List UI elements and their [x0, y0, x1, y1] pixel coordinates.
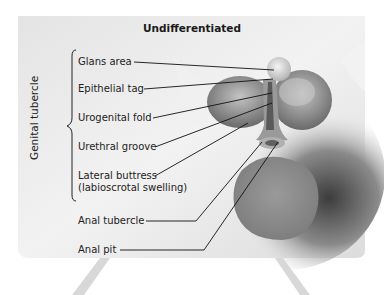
label-urethral-groove: Urethral groove — [78, 141, 156, 153]
label-anal-pit: Anal pit — [78, 244, 116, 256]
label-epithelial-tag: Epithelial tag — [78, 83, 144, 95]
group-label-genital-tubercle: Genital tubercle — [28, 76, 40, 160]
diagram-title: Undifferentiated — [0, 22, 384, 34]
diagram-illustration — [0, 0, 384, 295]
label-glans-area: Glans area — [78, 56, 132, 68]
label-lateral-buttress: Lateral buttress — [78, 170, 157, 182]
label-urogenital-fold: Urogenital fold — [78, 112, 152, 124]
label-anal-tubercle: Anal tubercle — [78, 215, 144, 227]
label-labioscrotal-swelling: (labioscrotal swelling) — [78, 182, 187, 194]
anal-disc — [234, 157, 319, 240]
